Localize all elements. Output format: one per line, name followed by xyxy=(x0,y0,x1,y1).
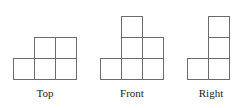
front-view-label: Front xyxy=(100,87,164,100)
top-view-cell xyxy=(55,58,77,80)
top-view-cell xyxy=(34,37,56,59)
front-view-cell xyxy=(142,58,164,80)
right-view-cell xyxy=(208,58,230,80)
top-view-label: Top xyxy=(13,87,77,100)
right-view-cell xyxy=(208,16,230,38)
front-view-cell xyxy=(121,58,143,80)
right-view-cell xyxy=(208,37,230,59)
front-view-cell xyxy=(121,37,143,59)
right-view-cell xyxy=(187,58,209,80)
top-view-cell xyxy=(13,58,35,80)
front-view-cell xyxy=(100,58,122,80)
front-view-cell xyxy=(142,37,164,59)
top-view-cell xyxy=(34,58,56,80)
orthographic-views-figure: Top Front Right xyxy=(0,0,240,108)
front-view-cell xyxy=(121,16,143,38)
top-view-cell xyxy=(55,37,77,59)
right-view-label: Right xyxy=(186,87,236,100)
